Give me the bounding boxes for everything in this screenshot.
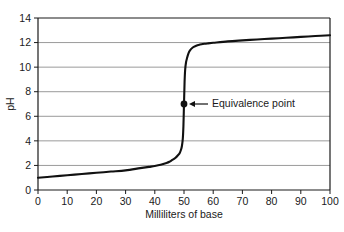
- titration-curve-figure: 0102030405060708090100 02468101214 Equiv…: [0, 0, 344, 232]
- x-axis-title: Milliliters of base: [145, 208, 223, 220]
- x-tick-label-100: 100: [321, 195, 339, 207]
- x-tick-label-70: 70: [237, 195, 249, 207]
- x-tick-label-30: 30: [120, 195, 132, 207]
- x-tick-label-60: 60: [207, 195, 219, 207]
- equivalence-point-marker: [181, 101, 188, 108]
- y-tick-label-6: 6: [25, 110, 31, 122]
- x-tick-label-40: 40: [149, 195, 161, 207]
- x-tick-label-50: 50: [178, 195, 190, 207]
- y-tick-label-10: 10: [19, 61, 31, 73]
- y-axis-title: pH: [4, 97, 16, 110]
- chart-canvas: 0102030405060708090100 02468101214 Equiv…: [0, 0, 344, 232]
- y-tick-label-12: 12: [19, 36, 31, 48]
- x-tick-label-10: 10: [61, 195, 73, 207]
- y-tick-label-4: 4: [25, 135, 31, 147]
- y-tick-label-8: 8: [25, 85, 31, 97]
- x-tick-label-90: 90: [295, 195, 307, 207]
- y-tick-label-14: 14: [19, 12, 31, 24]
- x-tick-label-20: 20: [91, 195, 103, 207]
- y-tick-label-0: 0: [25, 184, 31, 196]
- equivalence-point-label: Equivalence point: [212, 97, 295, 109]
- y-tick-label-2: 2: [25, 159, 31, 171]
- x-tick-label-80: 80: [266, 195, 278, 207]
- x-tick-label-0: 0: [35, 195, 41, 207]
